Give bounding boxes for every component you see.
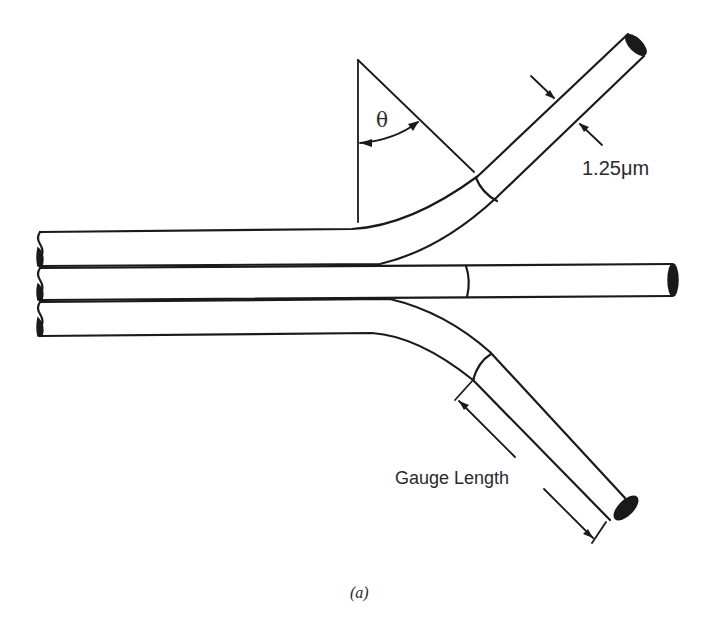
fiber-middle bbox=[40, 264, 678, 300]
figure-caption: (a) bbox=[350, 584, 369, 602]
gauge-marker bbox=[455, 379, 606, 543]
diameter-marker bbox=[531, 76, 602, 145]
diameter-label: 1.25μm bbox=[582, 157, 649, 180]
angle-marker bbox=[358, 60, 474, 222]
fiber-top bbox=[40, 32, 649, 266]
gauge-length-label: Gauge Length bbox=[395, 468, 509, 489]
fiber-diagram bbox=[0, 0, 712, 632]
cut-ends bbox=[37, 232, 43, 336]
angle-label: θ bbox=[376, 108, 388, 132]
fiber-bottom bbox=[40, 299, 642, 524]
